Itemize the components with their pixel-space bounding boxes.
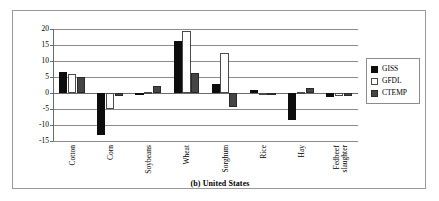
legend-swatch-gfdl [371, 78, 378, 85]
bar-giss-corn [97, 93, 105, 135]
bar-group [244, 29, 282, 141]
y-tick-label: 15 [42, 41, 50, 49]
x-label-line: Hay [297, 145, 306, 158]
bar-ctemp-soybeans [153, 86, 161, 93]
gridline--15 [53, 141, 358, 142]
bar-giss-fedbeef-slaughter [326, 93, 334, 97]
y-tick-label: 10 [42, 57, 50, 65]
y-tick-label: -15 [39, 137, 49, 145]
y-tick-label: 20 [42, 25, 50, 33]
x-label-line: Cotton [68, 145, 77, 165]
chart-legend: GISS GFDL CTEMP [366, 58, 420, 104]
bar-group [320, 29, 358, 141]
bar-group [129, 29, 167, 141]
bar-gfdl-rice [259, 93, 267, 95]
bar-giss-cotton [59, 72, 67, 93]
bar-ctemp-sorghum [229, 93, 237, 107]
x-label-rice: Rice [260, 145, 268, 159]
x-label-line: slaughter [340, 145, 349, 173]
bar-ctemp-wheat [191, 73, 199, 93]
legend-item-ctemp: CTEMP [371, 88, 416, 98]
bar-ctemp-hay [306, 88, 314, 93]
bar-group [206, 29, 244, 141]
x-label-line: Corn [106, 145, 115, 160]
figure-container: 20151050-5-10-15 CottonCornSoybeansWheat… [0, 0, 439, 201]
bar-gfdl-hay [297, 92, 305, 94]
y-tick-label: 0 [45, 89, 49, 97]
figure-caption: (b) United States [13, 179, 427, 188]
bar-giss-hay [288, 93, 296, 120]
bar-ctemp-rice [267, 93, 275, 95]
legend-label-ctemp: CTEMP [382, 89, 407, 97]
x-label-hay: Hay [298, 145, 306, 158]
bar-gfdl-soybeans [144, 92, 152, 94]
bar-ctemp-corn [115, 93, 123, 96]
x-label-wheat: Wheat [183, 145, 191, 165]
bar-ctemp-cotton [77, 77, 85, 93]
legend-label-giss: GISS [382, 65, 398, 73]
plot-area: 20151050-5-10-15 [53, 29, 358, 141]
y-tick-label: -10 [39, 121, 49, 129]
x-label-line: Wheat [182, 145, 191, 165]
figure-frame: 20151050-5-10-15 CottonCornSoybeansWheat… [12, 10, 426, 189]
y-tick-label: 5 [45, 73, 49, 81]
bar-group [53, 29, 91, 141]
legend-swatch-ctemp [371, 90, 378, 97]
bar-giss-wheat [174, 41, 182, 93]
bar-gfdl-fedbeef-slaughter [335, 93, 343, 96]
bar-gfdl-cotton [68, 74, 76, 93]
legend-label-gfdl: GFDL [382, 77, 402, 85]
x-label-line: Soybeans [144, 145, 153, 174]
legend-item-giss: GISS [371, 64, 416, 74]
x-label-line: Sorghum [221, 145, 230, 172]
x-label-corn: Corn [107, 145, 115, 160]
bar-group [282, 29, 320, 141]
bar-group [167, 29, 205, 141]
bar-gfdl-wheat [182, 31, 190, 93]
bar-giss-rice [250, 90, 258, 93]
legend-swatch-giss [371, 66, 378, 73]
x-label-soybeans: Soybeans [145, 145, 153, 174]
y-tick-label: -5 [43, 105, 49, 113]
bar-group [91, 29, 129, 141]
x-label-cotton: Cotton [69, 145, 77, 165]
x-label-sorghum: Sorghum [222, 145, 230, 172]
bar-giss-soybeans [135, 93, 143, 95]
bar-ctemp-fedbeef-slaughter [344, 93, 352, 96]
legend-item-gfdl: GFDL [371, 76, 416, 86]
x-label-line: Rice [259, 145, 268, 159]
bar-giss-sorghum [212, 84, 220, 93]
x-label-fedbeef-slaughter: Fedbeefslaughter [333, 145, 349, 173]
bar-gfdl-corn [106, 93, 114, 109]
bar-gfdl-sorghum [220, 53, 228, 93]
